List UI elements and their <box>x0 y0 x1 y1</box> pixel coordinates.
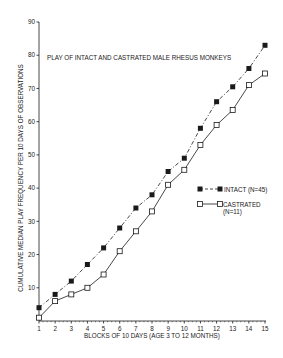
y-tick-label: 30 <box>28 218 36 225</box>
x-tick-label: 12 <box>213 325 221 332</box>
x-tick-label: 13 <box>229 325 237 332</box>
filled-square-marker <box>133 206 138 211</box>
filled-square-marker <box>85 262 90 267</box>
y-tick-label: 90 <box>28 18 36 25</box>
open-square-marker <box>150 209 155 214</box>
x-tick-label: 10 <box>181 325 189 332</box>
chart-title: PLAY OF INTACT AND CASTRATED MALE RHESUS… <box>47 54 231 61</box>
x-tick-label: 8 <box>150 325 154 332</box>
legend-item-intact: INTACT (N=45) <box>198 186 268 194</box>
filled-square-marker <box>246 66 251 71</box>
x-tick-label: 11 <box>197 325 204 332</box>
y-tick-label: 10 <box>28 284 36 291</box>
y-tick-label: 50 <box>28 151 36 158</box>
open-square-marker-icon <box>198 202 203 207</box>
open-square-marker <box>230 108 235 113</box>
filled-square-marker <box>117 226 122 231</box>
x-tick-label: 9 <box>166 325 170 332</box>
x-axis: 123456789101112131415 <box>37 321 269 332</box>
y-tick-label: 80 <box>28 51 36 58</box>
x-tick-label: 15 <box>261 325 269 332</box>
legend-label-intact: INTACT (N=45) <box>224 186 267 194</box>
open-square-marker <box>166 182 171 187</box>
filled-square-marker <box>101 245 106 250</box>
legend-item-castrated: CASTRATED (N=11) <box>198 201 262 217</box>
filled-square-marker <box>37 305 42 310</box>
open-square-marker <box>182 167 187 172</box>
series-layer <box>37 43 268 320</box>
filled-square-marker <box>53 292 58 297</box>
y-tick-label: 60 <box>28 118 36 125</box>
x-tick-label: 14 <box>245 325 253 332</box>
open-square-marker <box>37 315 42 320</box>
open-square-marker <box>117 249 122 254</box>
open-square-marker <box>133 229 138 234</box>
filled-square-marker <box>166 169 171 174</box>
x-tick-label: 1 <box>37 325 41 332</box>
series-intact <box>37 43 268 310</box>
filled-square-marker-icon <box>198 187 203 192</box>
open-square-marker <box>69 292 74 297</box>
filled-square-marker <box>69 279 74 284</box>
x-tick-label: 3 <box>70 325 74 332</box>
filled-square-marker-icon <box>218 187 223 192</box>
filled-square-marker <box>230 84 235 89</box>
x-tick-label: 7 <box>134 325 138 332</box>
filled-square-marker <box>150 192 155 197</box>
x-tick-label: 6 <box>118 325 122 332</box>
open-square-marker <box>246 83 251 88</box>
filled-square-marker <box>182 156 187 161</box>
x-tick-label: 2 <box>53 325 57 332</box>
y-tick-label: 40 <box>28 184 36 191</box>
open-square-marker <box>214 123 219 128</box>
open-square-marker <box>53 299 58 304</box>
filled-square-marker <box>263 43 268 48</box>
y-axis-label: CUMULATIVE MEDIAN PLAY FREQUENCY PER 10 … <box>17 64 25 292</box>
legend: INTACT (N=45) CASTRATED (N=11) <box>198 186 268 217</box>
line-chart: 102030405060708090 123456789101112131415… <box>0 0 283 358</box>
x-axis-label: BLOCKS OF 10 DAYS (AGE 3 TO 12 MONTHS) <box>84 332 220 340</box>
y-tick-label: 20 <box>28 251 36 258</box>
open-square-marker <box>85 285 90 290</box>
open-square-marker <box>101 272 106 277</box>
legend-label-castrated: CASTRATED <box>223 201 261 208</box>
x-tick-label: 5 <box>102 325 106 332</box>
y-tick-label: 70 <box>28 85 36 92</box>
filled-square-marker <box>214 99 219 104</box>
open-square-marker-icon <box>218 202 223 207</box>
y-axis: 102030405060708090 <box>28 18 39 321</box>
x-tick-label: 4 <box>86 325 90 332</box>
open-square-marker <box>263 71 268 76</box>
filled-square-marker <box>198 126 203 131</box>
legend-label-castrated-n: (N=11) <box>223 208 242 216</box>
open-square-marker <box>198 142 203 147</box>
